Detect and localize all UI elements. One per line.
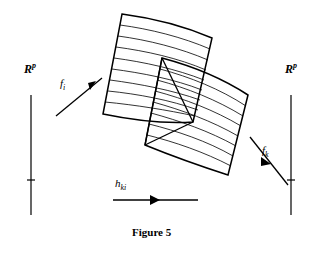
h-ki-sub: ki [121,183,127,192]
rp-left-label: Rp [24,62,36,75]
patch-lower-striation [153,102,238,136]
diagram-canvas [0,0,314,254]
overlap-left-edge [145,58,162,145]
rp-left-sup: p [32,61,36,70]
patch-upper-striation [118,36,208,60]
overlap-bottom-edge [145,122,193,145]
f-i-label: fi [60,78,65,92]
patch-upper-striation [105,102,195,116]
rp-right-sup: p [293,61,297,70]
rp-right-label: Rp [285,62,297,75]
rp-left-axis [27,95,35,215]
h-ki-label: hki [115,178,126,192]
arrow-f-k [250,137,288,185]
patch-lower-striation [157,80,243,116]
rp-right-axis [287,95,295,215]
rp-left-base: R [24,62,32,76]
figure-caption: Figure 5 [132,226,171,238]
patch-lower-striation [155,91,241,126]
f-i-sub: i [63,83,65,92]
patch-lower-right [145,58,248,175]
figure-5-diagram: Rp Rp fi fk hki Figure 5 [0,0,314,254]
f-k-label: fk [262,145,269,159]
arrow-h-ki-head [150,195,160,205]
f-k-sub: k [265,150,269,159]
rp-right-base: R [285,62,293,76]
